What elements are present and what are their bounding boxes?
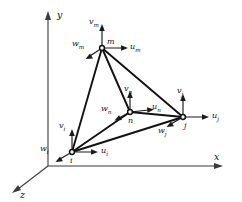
vector-label-w-i: wi (40, 145, 49, 155)
node-marker-m (100, 46, 105, 51)
axis-label-y: y (57, 10, 62, 20)
vector-label-u-m: um (130, 43, 141, 53)
x-axis-arrowhead (214, 163, 223, 169)
global-axes (12, 11, 223, 193)
edge-m-i (72, 48, 102, 152)
vectors-node-n (115, 91, 155, 121)
vector-label-w-m: wm (72, 40, 84, 50)
vector-label-u-n: un (152, 103, 161, 113)
vector-label-u-j: uj (212, 112, 219, 122)
tetrahedral-element-figure: y x z m n j i vm um wm vn un wn vj uj wj… (0, 0, 242, 202)
vector-label-v-m: vm (89, 18, 99, 28)
vector-v-m-arrowhead (99, 24, 105, 31)
y-axis-arrowhead (45, 11, 51, 20)
vector-u-i-arrowhead (91, 149, 98, 155)
node-marker-i (70, 150, 75, 155)
vectors-node-j (167, 94, 210, 127)
vector-label-w-j: wj (158, 127, 167, 137)
vector-label-u-i: ui (101, 147, 108, 157)
edge-m-n (102, 48, 130, 112)
node-label-n: n (128, 117, 133, 125)
node-label-j: j (184, 122, 186, 130)
vector-u-j-arrowhead (202, 114, 209, 120)
axis-label-z: z (20, 190, 25, 200)
axis-label-x: x (214, 152, 219, 162)
vector-label-v-n: vn (124, 85, 132, 95)
edge-m-j (102, 48, 183, 117)
vector-label-w-n: wn (101, 105, 112, 115)
node-marker-n (128, 110, 133, 115)
vector-label-v-i: vi (59, 122, 65, 132)
vector-v-i-arrowhead (69, 129, 75, 136)
node-label-m: m (107, 38, 115, 46)
node-marker-j (181, 115, 186, 120)
vector-label-v-j: vj (177, 87, 183, 97)
vector-u-m-arrowhead (121, 45, 128, 51)
z-axis-line (18, 166, 48, 189)
figure-canvas (0, 0, 242, 202)
node-label-i: i (70, 157, 73, 165)
